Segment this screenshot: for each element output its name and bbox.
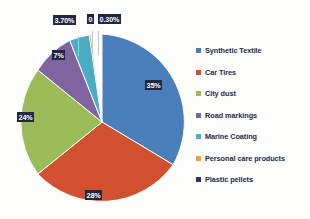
leader-line-marine-coating xyxy=(78,36,79,56)
legend-item-marine-coating[interactable]: Marine Coating xyxy=(196,126,308,148)
data-label-road-markings: 7% xyxy=(52,50,65,60)
data-label-plastic-pellets: 0 xyxy=(87,14,94,24)
data-label-synthetic-textile: 35% xyxy=(145,80,162,90)
legend-label: Personal care products xyxy=(205,154,285,163)
data-label-marine-coating: 3.70% xyxy=(53,15,76,25)
legend-swatch-icon xyxy=(196,113,201,118)
legend-swatch-icon xyxy=(196,70,201,75)
leader-line-personal-care xyxy=(98,31,99,55)
leader-line-plastic-pellets xyxy=(92,31,93,55)
legend-item-plastic-pellets[interactable]: Plastic pellets xyxy=(196,169,308,191)
data-label-car-tires: 28% xyxy=(85,190,102,200)
legend-item-personal-care-products[interactable]: Personal care products xyxy=(196,148,308,170)
legend-swatch-icon xyxy=(196,134,201,139)
pie-svg xyxy=(8,28,194,216)
legend-label: Marine Coating xyxy=(205,132,257,141)
pie-plot-area xyxy=(8,28,194,216)
chart-legend: Synthetic Textile Car Tires City dust Ro… xyxy=(196,40,308,191)
data-label-city-dust: 24% xyxy=(17,112,34,122)
legend-label: Road markings xyxy=(205,111,257,120)
legend-label: Synthetic Textile xyxy=(205,46,262,55)
pie-chart-figure: 35% 28% 24% 7% 3.70% 0 0.30% Synthetic T… xyxy=(0,0,310,219)
legend-swatch-icon xyxy=(196,156,201,161)
legend-label: Car Tires xyxy=(205,68,236,77)
legend-item-city-dust[interactable]: City dust xyxy=(196,83,308,105)
legend-item-road-markings[interactable]: Road markings xyxy=(196,105,308,127)
legend-swatch-icon xyxy=(196,177,201,182)
legend-swatch-icon xyxy=(196,91,201,96)
legend-label: City dust xyxy=(205,89,236,98)
legend-item-synthetic-textile[interactable]: Synthetic Textile xyxy=(196,40,308,62)
legend-swatch-icon xyxy=(196,48,201,53)
legend-label: Plastic pellets xyxy=(205,175,253,184)
legend-item-car-tires[interactable]: Car Tires xyxy=(196,62,308,84)
data-label-personal-care-products: 0.30% xyxy=(98,14,121,24)
